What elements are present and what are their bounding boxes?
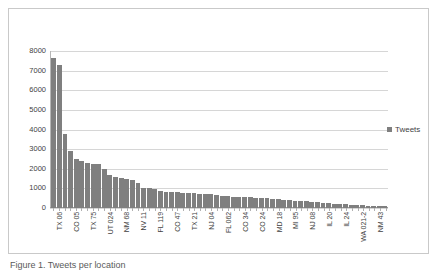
chart-frame: 800070006000500040003000200010000 TX 06C… — [8, 8, 429, 254]
bar — [164, 192, 169, 208]
x-axis-tick — [318, 208, 319, 211]
x-axis-category-label: CO 24 — [259, 212, 266, 232]
bar — [68, 151, 73, 208]
bar — [130, 180, 135, 208]
x-axis-tick — [341, 208, 342, 211]
bar-series-tweets — [51, 51, 388, 208]
x-axis-tick — [104, 208, 105, 211]
x-axis-category-label: FL 062 — [225, 212, 232, 233]
y-axis-tick-label: 5000 — [29, 106, 46, 114]
bar — [186, 193, 191, 208]
y-axis-tick-labels: 800070006000500040003000200010000 — [15, 9, 46, 253]
x-axis-tick — [93, 208, 94, 211]
bar — [180, 193, 185, 208]
x-axis-category-labels: TX 06CO 05TX 75UT 024NM 68NV 11FL 119CO … — [50, 212, 390, 256]
x-axis-tick — [245, 208, 246, 211]
bar — [203, 194, 208, 208]
x-axis-tick — [138, 208, 139, 211]
x-axis-tick — [358, 208, 359, 211]
x-axis-tick — [374, 208, 375, 211]
y-axis-tick-label: 2000 — [29, 165, 46, 173]
plot-area — [50, 51, 388, 208]
bar — [124, 179, 129, 208]
x-axis-tick — [70, 208, 71, 211]
x-axis-tick — [346, 208, 347, 211]
y-axis-tick-label: 8000 — [29, 47, 46, 55]
bar — [270, 199, 275, 208]
x-axis-tick — [87, 208, 88, 211]
bar — [298, 201, 303, 208]
bar — [231, 197, 236, 208]
bar — [169, 192, 174, 208]
x-axis-tick — [239, 208, 240, 211]
bar — [74, 159, 79, 208]
y-axis-tick-label: 4000 — [29, 126, 46, 134]
x-axis-tick — [329, 208, 330, 211]
bar — [214, 195, 219, 208]
bar — [265, 198, 270, 208]
x-axis-category-label: WA 021-2 — [360, 212, 367, 242]
x-axis-category-label: NJ 04 — [208, 212, 215, 230]
x-axis-tick — [307, 208, 308, 211]
bar — [236, 197, 241, 208]
x-axis-tick — [312, 208, 313, 211]
x-axis-tick — [250, 208, 251, 211]
x-axis-tick — [273, 208, 274, 211]
x-axis-category-label: FL 119 — [157, 212, 164, 232]
bar — [141, 188, 146, 208]
x-axis-tick — [81, 208, 82, 211]
x-axis-tick — [262, 208, 263, 211]
x-axis-category-label: UT 024 — [107, 212, 114, 234]
bar — [91, 164, 96, 208]
x-axis-category-label: IL 20 — [326, 212, 333, 227]
x-axis-tick — [194, 208, 195, 211]
chart-screenshot: 800070006000500040003000200010000 TX 06C… — [0, 0, 439, 274]
bar — [63, 134, 68, 208]
bar — [136, 183, 141, 209]
x-axis-tick — [172, 208, 173, 211]
y-axis-tick-label: 6000 — [29, 86, 46, 94]
x-axis-ticks — [51, 208, 389, 211]
x-axis-category-label: NJ 08 — [309, 212, 316, 230]
x-axis-category-label: NM 43 — [377, 212, 384, 232]
bar — [152, 189, 157, 208]
bar — [197, 194, 202, 208]
x-axis-tick — [166, 208, 167, 211]
x-axis-tick — [217, 208, 218, 211]
y-axis-tick-label: 7000 — [29, 67, 46, 75]
x-axis-tick — [290, 208, 291, 211]
x-axis-tick — [65, 208, 66, 211]
bar — [208, 194, 213, 208]
x-axis-tick — [115, 208, 116, 211]
bar — [304, 201, 309, 208]
x-axis-tick — [183, 208, 184, 211]
x-axis-category-label: CO 34 — [242, 212, 249, 232]
bar — [57, 65, 62, 208]
x-axis-tick — [222, 208, 223, 211]
bar — [175, 192, 180, 208]
x-axis-tick — [369, 208, 370, 211]
y-axis-tick-label: 3000 — [29, 145, 46, 153]
bar — [158, 191, 163, 208]
x-axis-tick — [256, 208, 257, 211]
chart-legend: Tweets — [387, 125, 420, 134]
x-axis-tick — [155, 208, 156, 211]
x-axis-tick — [177, 208, 178, 211]
square-marker-icon — [387, 127, 392, 132]
x-axis-category-label: TX 06 — [56, 212, 63, 230]
bar — [79, 161, 84, 208]
x-axis-tick — [335, 208, 336, 211]
bar — [96, 164, 101, 208]
x-axis-tick — [380, 208, 381, 211]
x-axis-category-label: MI 95 — [292, 212, 299, 229]
x-axis-tick — [363, 208, 364, 211]
x-axis-tick — [127, 208, 128, 211]
plot-area-wrapper: 800070006000500040003000200010000 TX 06C… — [9, 9, 428, 253]
x-axis-category-label: NM 68 — [123, 212, 130, 232]
bar — [259, 198, 264, 208]
x-axis-tick — [301, 208, 302, 211]
x-axis-tick — [352, 208, 353, 211]
bar — [113, 177, 118, 208]
bar — [147, 188, 152, 208]
x-axis-tick — [324, 208, 325, 211]
